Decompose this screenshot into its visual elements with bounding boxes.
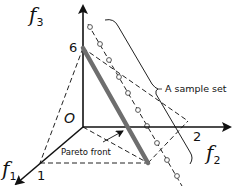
f1-tick-label: 1 — [37, 168, 45, 183]
sample-set-label: A sample set — [165, 83, 227, 94]
sample-set-line — [88, 24, 182, 186]
axes — [16, 6, 230, 184]
origin-label: O — [64, 110, 75, 126]
f2-tick-label: 2 — [193, 129, 201, 144]
f3-tick-label: 6 — [69, 40, 77, 55]
pareto-annotation-arrow — [103, 131, 123, 142]
f1-label: f1 — [0, 157, 16, 183]
pareto-front-label: Pareto front — [61, 147, 112, 157]
pareto-front-line — [83, 48, 148, 163]
f3-label: f3 — [27, 3, 43, 29]
pareto-diagram: f3 f2 f1 6 2 1 O A sample set Pareto fro… — [0, 0, 241, 189]
f2-label: f2 — [204, 141, 220, 167]
